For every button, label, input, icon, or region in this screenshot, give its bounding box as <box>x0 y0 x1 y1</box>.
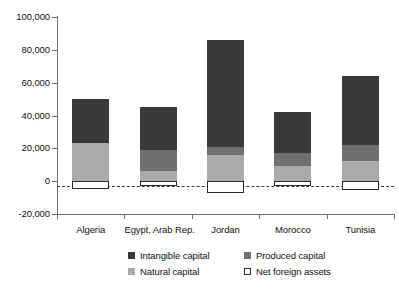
y-axis-tick-label: 60,000 <box>2 78 50 88</box>
y-axis-tick-label: 0 <box>2 176 50 186</box>
y-axis-tick-label-wrap: -20,000 <box>0 209 50 219</box>
bar-segment-net-foreign-assets <box>274 181 311 186</box>
bar-group-algeria <box>72 17 109 214</box>
bar-segment-intangible-capital <box>72 99 109 143</box>
bar-group-tunisia <box>342 17 379 214</box>
y-axis-tick-label: 80,000 <box>2 45 50 55</box>
bar-segment-intangible-capital <box>342 76 379 145</box>
legend-swatch-icon-intangible <box>128 252 135 259</box>
wealth-composition-chart: 100,00080,00060,00040,00020,0000-20,000 … <box>0 0 399 290</box>
x-axis-tick <box>259 214 260 219</box>
legend-item-net-foreign-assets: Net foreign assets <box>244 266 331 277</box>
x-axis-tick <box>394 214 395 219</box>
bar-segment-produced-capital <box>140 150 177 171</box>
bar-segment-produced-capital <box>274 153 311 166</box>
plot-area <box>57 17 394 214</box>
bar-segment-intangible-capital <box>140 107 177 150</box>
x-axis-tick <box>124 214 125 219</box>
legend-label-net-foreign-assets: Net foreign assets <box>256 266 331 277</box>
bar-segment-intangible-capital <box>274 112 311 153</box>
bar-group-jordan <box>207 17 244 214</box>
x-axis-label-tunisia: Tunisia <box>327 224 394 235</box>
bar-segment-natural-capital <box>207 155 244 181</box>
x-axis-line <box>57 214 394 215</box>
legend-swatch-icon-produced <box>244 252 251 259</box>
legend-label-produced-capital: Produced capital <box>256 250 325 261</box>
legend-row-1: Intangible capital Produced capital <box>128 250 396 266</box>
bar-segment-net-foreign-assets <box>207 181 244 193</box>
bar-segment-natural-capital <box>342 161 379 181</box>
y-axis-tick-label-wrap: 100,000 <box>0 12 50 22</box>
x-axis-tick <box>57 214 58 219</box>
y-axis-tick-label-wrap: 80,000 <box>0 45 50 55</box>
legend-row-2: Natural capital Net foreign assets <box>128 266 396 282</box>
bar-segment-net-foreign-assets <box>140 181 177 186</box>
x-axis-label-morocco: Morocco <box>259 224 326 235</box>
legend-item-intangible-capital: Intangible capital <box>128 250 244 261</box>
legend-label-natural-capital: Natural capital <box>140 266 199 277</box>
y-axis-tick-label: -20,000 <box>2 209 50 219</box>
legend-swatch-icon-net-foreign-assets <box>244 268 251 275</box>
y-axis-tick-label: 40,000 <box>2 111 50 121</box>
bar-group-egypt-arab-rep <box>140 17 177 214</box>
legend-swatch-icon-natural <box>128 268 135 275</box>
y-axis-tick-label-wrap: 0 <box>0 176 50 186</box>
y-axis-tick-label: 100,000 <box>2 12 50 22</box>
legend-label-intangible-capital: Intangible capital <box>140 250 210 261</box>
bar-segment-produced-capital <box>342 145 379 161</box>
bar-segment-net-foreign-assets <box>72 181 109 189</box>
bar-segment-natural-capital <box>72 143 109 181</box>
x-axis-label-algeria: Algeria <box>57 224 124 235</box>
y-axis-tick-label-wrap: 20,000 <box>0 143 50 153</box>
y-axis-tick-label-wrap: 40,000 <box>0 111 50 121</box>
legend-item-produced-capital: Produced capital <box>244 250 325 261</box>
x-axis-label-egypt-arab-rep: Egypt, Arab Rep. <box>124 224 191 235</box>
bar-group-morocco <box>274 17 311 214</box>
legend-item-natural-capital: Natural capital <box>128 266 244 277</box>
x-axis-tick <box>327 214 328 219</box>
chart-legend: Intangible capital Produced capital Natu… <box>128 250 396 282</box>
x-axis-tick <box>192 214 193 219</box>
y-axis-tick-label: 20,000 <box>2 143 50 153</box>
y-axis-tick-label-wrap: 60,000 <box>0 78 50 88</box>
bar-segment-natural-capital <box>140 171 177 181</box>
x-axis-label-jordan: Jordan <box>192 224 259 235</box>
bar-segment-intangible-capital <box>207 40 244 147</box>
bar-segment-net-foreign-assets <box>342 181 379 190</box>
bar-segment-produced-capital <box>207 147 244 155</box>
bar-segment-natural-capital <box>274 166 311 181</box>
